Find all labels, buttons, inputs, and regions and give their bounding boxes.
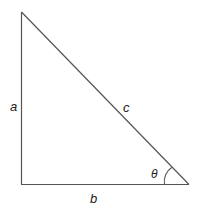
angle-theta-arc <box>164 167 172 184</box>
label-theta: θ <box>151 168 158 180</box>
label-a: a <box>10 100 17 113</box>
hypotenuse-c-line <box>22 12 190 185</box>
triangle-diagram <box>0 0 198 210</box>
label-c: c <box>123 101 130 114</box>
label-b: b <box>90 192 97 205</box>
